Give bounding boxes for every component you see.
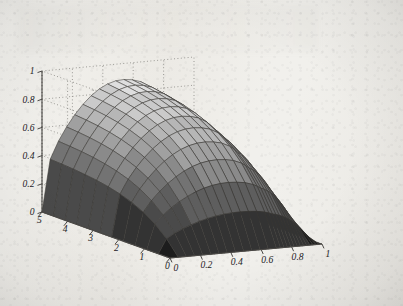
tick-label: 0: [30, 206, 35, 217]
surface-mesh: [42, 79, 322, 258]
tick-label: 0: [165, 260, 170, 271]
tick-label: 1: [140, 251, 145, 262]
tick-label: 5: [37, 214, 42, 225]
tick-label: 0.4: [231, 256, 243, 267]
tick-label: 0.6: [261, 254, 273, 265]
tick-label: 1: [30, 65, 35, 76]
tick-label: 1: [326, 248, 331, 259]
figure-canvas: 00.20.40.60.8101234500.20.40.60.81: [0, 0, 403, 306]
tick-label: 0.8: [23, 94, 35, 105]
tick-label: 0.4: [23, 150, 35, 161]
tick-label: 4: [63, 223, 68, 234]
tick-label: 0.2: [200, 259, 212, 270]
surface-plot-svg: 00.20.40.60.8101234500.20.40.60.81: [0, 0, 403, 306]
tick-label: 0.2: [23, 178, 35, 189]
tick-label: 0: [174, 262, 179, 273]
tick-label: 0.6: [23, 122, 35, 133]
tick-label: 0.8: [292, 251, 304, 262]
tick-label: 3: [87, 232, 93, 243]
tick-label: 2: [114, 242, 119, 253]
